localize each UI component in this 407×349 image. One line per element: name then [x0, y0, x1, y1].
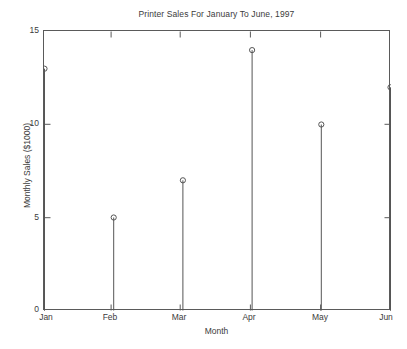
- x-tick-label-jan: Jan: [16, 312, 76, 323]
- plot-area: [43, 30, 390, 310]
- chart-figure: Printer Sales For January To June, 1997 …: [0, 0, 407, 349]
- y-axis-ticks-left: [45, 124, 51, 217]
- x-tick-label-mar: Mar: [149, 312, 209, 323]
- y-tick-label-15: 15: [9, 26, 39, 35]
- x-tick-label-jun: Jun: [356, 312, 407, 323]
- x-axis-ticks-top: [111, 32, 321, 38]
- x-axis-title: Month: [43, 326, 390, 337]
- y-axis-ticks-right: [385, 124, 391, 217]
- chart-plot-svg: [44, 31, 391, 311]
- chart-title: Printer Sales For January To June, 1997: [43, 9, 390, 20]
- y-axis-title: Monthly Sales ($1000): [22, 86, 33, 246]
- x-axis-ticks: [45, 305, 391, 311]
- x-tick-label-may: May: [290, 312, 350, 323]
- x-tick-label-feb: Feb: [80, 312, 140, 323]
- stem-series: [44, 48, 391, 311]
- x-tick-label-apr: Apr: [219, 312, 279, 323]
- x-axis-tick-labels: Jan Feb Mar Apr May Jun: [0, 312, 407, 326]
